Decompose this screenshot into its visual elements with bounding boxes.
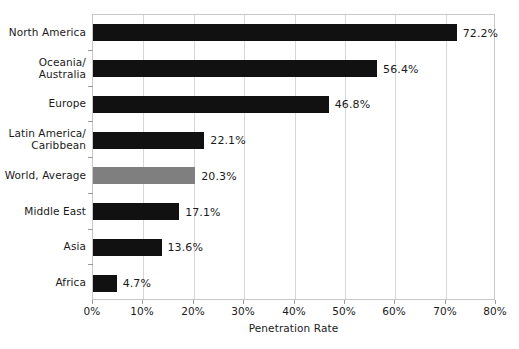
category-tick	[88, 157, 93, 158]
category-label: World, Average	[0, 169, 86, 181]
bar-value-label: 46.8%	[335, 98, 370, 111]
bar-value-label: 13.6%	[168, 241, 203, 254]
category-label: Latin America/ Caribbean	[0, 127, 86, 151]
x-axis-tick	[394, 300, 395, 304]
category-label: Africa	[0, 276, 86, 288]
gridline	[244, 15, 245, 299]
x-axis-tick-label: 60%	[382, 305, 406, 317]
gridline	[194, 15, 195, 299]
x-axis-tick-label: 50%	[332, 305, 356, 317]
bar	[93, 96, 329, 113]
category-label: Europe	[0, 97, 86, 109]
x-axis-tick	[445, 300, 446, 304]
penetration-rate-bar-chart: 72.2%56.4%46.8%22.1%20.3%17.1%13.6%4.7% …	[0, 0, 519, 349]
bar	[93, 132, 204, 149]
x-axis-tick-label: 70%	[433, 305, 457, 317]
bar-value-label: 4.7%	[123, 277, 151, 290]
category-tick	[88, 264, 93, 265]
x-axis-tick-label: 0%	[84, 305, 101, 317]
bar	[93, 24, 457, 41]
bar	[93, 239, 162, 256]
bar	[93, 203, 179, 220]
gridline	[446, 15, 447, 299]
gridline	[295, 15, 296, 299]
category-label: North America	[0, 26, 86, 38]
bar-row: 4.7%	[93, 275, 496, 292]
bar-value-label: 72.2%	[463, 26, 498, 39]
gridline	[143, 15, 144, 299]
x-axis-tick	[142, 300, 143, 304]
bar	[93, 275, 117, 292]
bar-value-label: 17.1%	[185, 205, 220, 218]
bar-value-label: 20.3%	[201, 169, 236, 182]
x-axis-title: Penetration Rate	[92, 322, 495, 334]
category-tick	[88, 229, 93, 230]
x-axis-tick-label: 20%	[181, 305, 205, 317]
x-axis-tick	[344, 300, 345, 304]
bar-row: 20.3%	[93, 167, 496, 184]
x-axis-tick	[243, 300, 244, 304]
bar-row: 22.1%	[93, 132, 496, 149]
bar-row: 17.1%	[93, 203, 496, 220]
bar	[93, 60, 377, 77]
x-axis-tick-label: 30%	[231, 305, 255, 317]
bar	[93, 167, 195, 184]
bar-row: 13.6%	[93, 239, 496, 256]
bar-row: 72.2%	[93, 24, 496, 41]
category-tick	[88, 193, 93, 194]
x-axis-tick-label: 40%	[282, 305, 306, 317]
category-label: Asia	[0, 240, 86, 252]
x-axis-tick	[193, 300, 194, 304]
category-label: Middle East	[0, 205, 86, 217]
category-axis-labels: North AmericaOceania/ AustraliaEuropeLat…	[0, 14, 86, 300]
x-axis-tick-label: 10%	[130, 305, 154, 317]
x-axis-tick	[92, 300, 93, 304]
category-tick	[88, 86, 93, 87]
category-tick	[88, 121, 93, 122]
bar-value-label: 56.4%	[383, 62, 418, 75]
gridline	[345, 15, 346, 299]
x-axis-tick	[495, 300, 496, 304]
bar-row: 46.8%	[93, 96, 496, 113]
bar-row: 56.4%	[93, 60, 496, 77]
x-axis-tick	[294, 300, 295, 304]
bar-value-label: 22.1%	[210, 134, 245, 147]
gridline	[395, 15, 396, 299]
plot-area: 72.2%56.4%46.8%22.1%20.3%17.1%13.6%4.7%	[92, 14, 495, 300]
category-label: Oceania/ Australia	[0, 56, 86, 80]
x-axis-tick-label: 80%	[483, 305, 507, 317]
category-tick	[88, 50, 93, 51]
